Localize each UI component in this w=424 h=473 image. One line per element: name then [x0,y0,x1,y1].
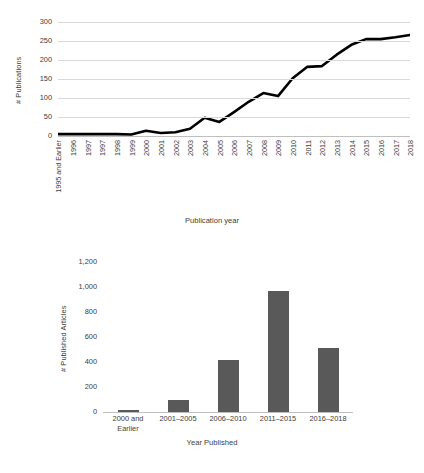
line-chart-plot-area [58,22,410,136]
line-chart-gridline [58,41,410,42]
line-chart-x-tick: 1998 [113,140,122,156]
bar [118,410,139,412]
line-chart-x-tick: 2009 [274,140,283,156]
bar-chart-y-tick: 800 [55,308,97,315]
line-chart-y-tick: 250 [10,37,52,44]
bar-chart-y-tick: 400 [55,358,97,365]
line-chart-y-tick-labels: 050100150200250300 [10,0,52,160]
bar-chart-x-tick: 2011–2015 [253,414,303,424]
line-chart-y-tick: 200 [10,56,52,63]
bar-chart-y-tick: 1,000 [55,283,97,290]
line-chart-x-tick: 2013 [333,140,342,156]
line-chart-gridline [58,79,410,80]
published-articles-bar-chart: # Published Articles 02004006008001,0001… [0,232,424,473]
bar-chart-y-tick-labels: 02004006008001,0001,200 [55,232,97,432]
line-chart-y-tick: 300 [10,18,52,25]
bar-chart-x-axis-title: Year Published [0,438,424,447]
line-chart-y-tick: 150 [10,75,52,82]
bar-chart-x-tick: 2016–2018 [303,414,353,424]
line-chart-x-tick: 2017 [392,140,401,156]
line-chart-y-tick: 100 [10,94,52,101]
line-chart-x-tick: 2015 [362,140,371,156]
line-chart-gridline [58,60,410,61]
bar-chart-x-tick: 2006–2010 [203,414,253,424]
line-chart-x-tick: 1997 [98,140,107,156]
line-chart-y-tick: 50 [10,113,52,120]
line-chart-x-tick: 1999 [128,140,137,156]
line-chart-x-tick: 1997 [84,140,93,156]
line-chart-x-tick: 2012 [318,140,327,156]
bar-chart-y-tick: 600 [55,333,97,340]
line-chart-x-tick: 2002 [172,140,181,156]
bar-chart-x-tick: 2001–2005 [153,414,203,424]
line-chart-x-tick: 2011 [304,140,313,155]
line-chart-x-tick-labels: 1995 and Earlier199619971997199819992000… [58,140,410,220]
line-chart-x-tick: 2007 [245,140,254,156]
line-chart-x-tick: 2004 [201,140,210,156]
bar-chart-y-tick: 200 [55,383,97,390]
line-chart-x-tick: 2010 [289,140,298,156]
bar [268,291,289,412]
line-chart-x-tick: 1995 and Earlier [54,140,63,193]
line-chart-x-tick: 2008 [260,140,269,156]
line-chart-gridline [58,98,410,99]
line-chart-x-tick: 1996 [69,140,78,156]
bar [168,400,189,412]
line-chart-gridline [58,117,410,118]
bar [218,360,239,412]
publications-line-chart: # Publications 050100150200250300 1995 a… [0,0,424,232]
line-chart-x-tick: 2001 [157,140,166,156]
line-chart-x-tick: 2018 [406,140,415,156]
line-chart-x-axis-title: Publication year [0,216,424,225]
line-chart-x-tick: 2005 [216,140,225,156]
line-chart-x-tick: 2014 [348,140,357,156]
bar-chart-y-tick: 1,200 [55,258,97,265]
line-chart-gridline [58,22,410,23]
bar-chart-x-tick: 2000 and Earlier [103,414,153,433]
bar-chart-plot-area [103,262,353,412]
bar [318,348,339,412]
bar-chart-y-tick: 0 [55,408,97,415]
bar-chart-x-tick-labels: 2000 and Earlier2001–20052006–20102011–2… [103,414,353,454]
line-chart-x-tick: 2000 [142,140,151,156]
bar-chart-x-axis-line [103,412,353,413]
line-chart-y-tick: 0 [10,132,52,139]
line-chart-x-tick: 2003 [186,140,195,156]
line-chart-x-tick: 2006 [230,140,239,156]
line-chart-x-axis-line [58,136,410,137]
line-chart-x-tick: 2016 [377,140,386,156]
